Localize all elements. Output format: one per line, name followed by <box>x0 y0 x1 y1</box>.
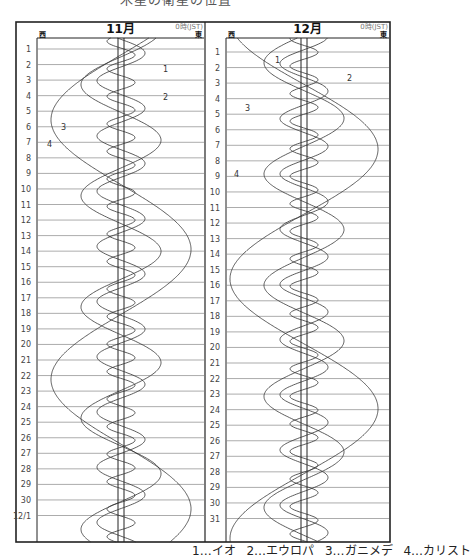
legend-item-callisto: 4…カリスト <box>403 544 471 558</box>
row-label-23: 23 <box>210 390 220 399</box>
ganymede-curve <box>264 38 344 542</box>
row-label-5: 5 <box>215 110 220 119</box>
row-label-8: 8 <box>215 157 220 166</box>
annotation-4: 4 <box>234 170 239 179</box>
row-label-26: 26 <box>21 434 31 443</box>
row-label-13: 13 <box>210 235 220 244</box>
legend-item-europa: 2…エウロパ <box>246 544 314 558</box>
row-label-17: 17 <box>210 297 220 306</box>
callisto-curve <box>51 38 191 542</box>
row-label-28: 28 <box>210 468 220 477</box>
east-label: 東 <box>380 30 388 39</box>
row-label-12-1: 12/1 <box>13 512 31 521</box>
annotation-2: 2 <box>163 93 168 102</box>
row-label-18: 18 <box>21 309 31 318</box>
west-label: 西 <box>228 31 235 39</box>
callisto-curve <box>230 38 378 542</box>
row-label-3: 3 <box>215 79 220 88</box>
row-label-15: 15 <box>21 263 31 272</box>
row-label-8: 8 <box>26 154 31 163</box>
row-label-13: 13 <box>21 232 31 241</box>
row-label-9: 9 <box>26 169 31 178</box>
row-label-15: 15 <box>210 266 220 275</box>
annotation-2: 2 <box>347 74 352 83</box>
time-note: 0時(JST) <box>175 23 203 31</box>
row-label-27: 27 <box>21 449 31 458</box>
row-label-20: 20 <box>210 343 220 352</box>
row-label-1: 1 <box>26 45 31 54</box>
row-label-28: 28 <box>21 465 31 474</box>
row-label-20: 20 <box>21 340 31 349</box>
row-label-11: 11 <box>21 201 31 210</box>
row-label-10: 10 <box>210 188 220 197</box>
row-label-25: 25 <box>210 421 220 430</box>
europa-curve <box>280 38 328 542</box>
row-label-23: 23 <box>21 387 31 396</box>
row-label-7: 7 <box>26 138 31 147</box>
row-label-18: 18 <box>210 312 220 321</box>
row-label-14: 14 <box>21 247 31 256</box>
row-label-26: 26 <box>210 437 220 446</box>
row-label-14: 14 <box>210 250 220 259</box>
row-label-10: 10 <box>21 185 31 194</box>
row-label-6: 6 <box>215 126 220 135</box>
panel-title: 11月 <box>106 22 135 36</box>
annotation-3: 3 <box>61 123 66 132</box>
row-label-25: 25 <box>21 418 31 427</box>
row-label-6: 6 <box>26 123 31 132</box>
row-label-24: 24 <box>21 403 31 412</box>
row-label-21: 21 <box>210 359 220 368</box>
row-label-7: 7 <box>215 141 220 150</box>
row-label-24: 24 <box>210 406 220 415</box>
row-label-4: 4 <box>215 95 220 104</box>
annotation-3: 3 <box>245 104 250 113</box>
row-label-30: 30 <box>210 499 220 508</box>
row-label-29: 29 <box>210 483 220 492</box>
row-label-9: 9 <box>215 172 220 181</box>
row-label-5: 5 <box>26 107 31 116</box>
legend-item-ganymede: 3…ガニメデ <box>325 544 393 558</box>
west-label: 西 <box>39 31 46 39</box>
row-label-16: 16 <box>21 278 31 287</box>
panel-title: 12月 <box>293 22 322 36</box>
annotation-1: 1 <box>163 65 168 74</box>
legend-item-io: 1…イオ <box>192 544 236 558</box>
east-label: 東 <box>195 30 203 39</box>
row-label-2: 2 <box>26 61 31 70</box>
annotation-1: 1 <box>275 56 280 65</box>
ganymede-curve <box>81 38 161 542</box>
row-label-16: 16 <box>210 281 220 290</box>
row-label-22: 22 <box>21 372 31 381</box>
row-label-12: 12 <box>210 219 220 228</box>
row-label-19: 19 <box>210 328 220 337</box>
europa-curve <box>97 38 145 542</box>
legend: 1…イオ 2…エウロパ 3…ガニメデ 4…カリスト <box>192 541 474 558</box>
row-label-17: 17 <box>21 294 31 303</box>
row-label-11: 11 <box>210 204 220 213</box>
row-label-31: 31 <box>210 515 220 524</box>
row-label-22: 22 <box>210 375 220 384</box>
io-curve <box>107 38 135 542</box>
row-label-12: 12 <box>21 216 31 225</box>
row-label-27: 27 <box>210 452 220 461</box>
row-label-21: 21 <box>21 356 31 365</box>
annotation-4: 4 <box>47 140 52 149</box>
row-label-2: 2 <box>215 64 220 73</box>
row-label-3: 3 <box>26 76 31 85</box>
io-curve <box>290 38 318 542</box>
row-label-4: 4 <box>26 92 31 101</box>
row-label-29: 29 <box>21 480 31 489</box>
row-label-30: 30 <box>21 496 31 505</box>
time-note: 0時(JST) <box>360 23 388 31</box>
row-label-1: 1 <box>215 48 220 57</box>
row-label-19: 19 <box>21 325 31 334</box>
